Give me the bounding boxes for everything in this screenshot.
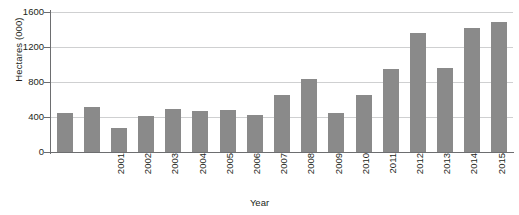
x-tick-label: 2011 [387, 153, 398, 199]
y-tick-label: 1600 [0, 7, 44, 17]
x-tick-label: 2003 [169, 153, 180, 199]
bar [138, 116, 154, 152]
x-tick-label: 2013 [441, 153, 452, 199]
y-tick-label: 800 [0, 77, 44, 87]
y-axis-tick-labels: 0 400 800 1200 1600 [0, 0, 44, 215]
x-tick-label: 2012 [414, 153, 425, 199]
x-tick-label: 2007 [278, 153, 289, 199]
bar [84, 107, 100, 153]
x-tick-label: 2008 [305, 153, 316, 199]
y-tick-label: 0 [0, 147, 44, 157]
bar [111, 128, 127, 153]
bar [165, 109, 181, 152]
source-note [0, 209, 519, 215]
bar [192, 111, 208, 152]
bar [220, 110, 236, 152]
bar [410, 33, 426, 152]
x-axis-title: Year [0, 197, 519, 208]
x-tick-label: 2009 [333, 153, 344, 199]
bar [328, 113, 344, 152]
bar [383, 69, 399, 152]
y-tick-label: 1200 [0, 42, 44, 52]
bar [301, 79, 317, 152]
x-tick-label: 2001 [115, 153, 126, 199]
x-tick-label: 2014 [468, 153, 479, 199]
bar [57, 113, 73, 152]
bar-chart: Hectares (000) 0 400 800 1200 1600 20012… [0, 0, 519, 215]
x-tick-label: 2002 [142, 153, 153, 199]
y-tick-label: 400 [0, 112, 44, 122]
bar [247, 115, 263, 152]
bar-series [51, 12, 513, 152]
x-tick-label: 2010 [360, 153, 371, 199]
x-tick-label: 2005 [224, 153, 235, 199]
x-tick-label: 2004 [197, 153, 208, 199]
bar [437, 68, 453, 152]
bar [464, 28, 480, 152]
x-axis-tick-labels: 2001200220032004200520062007200820092010… [51, 153, 513, 199]
bar [356, 95, 372, 152]
bar [491, 22, 507, 152]
x-tick-label: 2015 [496, 153, 507, 199]
bar [274, 95, 290, 152]
x-tick-label: 2006 [251, 153, 262, 199]
